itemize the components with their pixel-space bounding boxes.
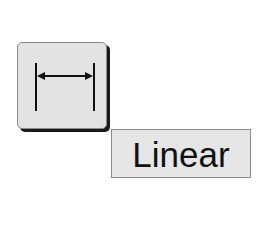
tooltip-label: Linear bbox=[111, 129, 251, 178]
tooltip-text: Linear bbox=[132, 137, 229, 172]
linear-dimension-icon bbox=[18, 43, 108, 130]
linear-dimension-button[interactable] bbox=[17, 42, 107, 129]
